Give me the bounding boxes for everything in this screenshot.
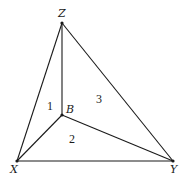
vertex-label-b: B (65, 103, 74, 116)
vertex-z-dot (60, 21, 63, 24)
vertex-label-y: Y (170, 163, 179, 176)
edge-z-x (17, 23, 62, 161)
vertex-label-x: X (9, 163, 19, 176)
vertex-label-z: Z (57, 7, 66, 20)
region-label-1: 1 (47, 99, 53, 113)
vertex-b-dot (60, 113, 63, 116)
triangle-diagram: Z B X Y 1 2 3 (0, 0, 188, 183)
edge-b-y (62, 115, 173, 161)
edge-b-x (17, 115, 62, 161)
edge-z-y (62, 23, 173, 161)
region-label-2: 2 (69, 132, 75, 146)
region-label-3: 3 (96, 92, 102, 106)
